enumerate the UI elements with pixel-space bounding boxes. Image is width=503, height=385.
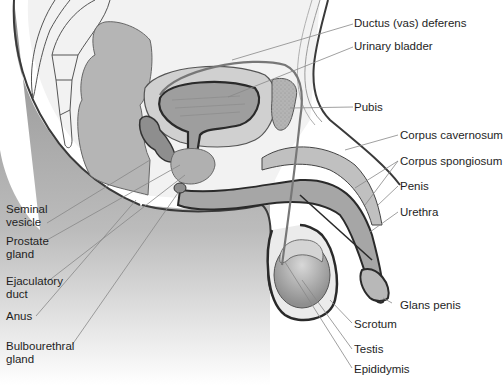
label-bulbourethral-gland: Bulbourethral gland	[6, 340, 78, 366]
label-corpus-spongiosum: Corpus spongiosum	[400, 155, 502, 168]
label-urinary-bladder: Urinary bladder	[354, 40, 433, 53]
label-scrotum: Scrotum	[354, 318, 397, 331]
scrotum	[268, 225, 337, 320]
label-ductus-deferens: Ductus (vas) deferens	[354, 17, 467, 30]
label-anus: Anus	[6, 310, 32, 323]
label-seminal-vesicle: Seminal vesicle	[6, 203, 56, 229]
label-ejaculatory-duct: Ejaculatory duct	[6, 275, 66, 301]
label-penis: Penis	[400, 180, 429, 193]
label-urethra: Urethra	[400, 206, 438, 219]
bulbourethral-gland	[174, 183, 186, 193]
label-glans-penis: Glans penis	[400, 299, 461, 312]
label-epididymis: Epididymis	[354, 363, 410, 376]
label-prostate-gland: Prostate gland	[6, 235, 56, 261]
label-testis: Testis	[354, 343, 383, 356]
label-corpus-cavernosum: Corpus cavernosum	[400, 129, 503, 142]
label-pubis: Pubis	[354, 101, 383, 114]
